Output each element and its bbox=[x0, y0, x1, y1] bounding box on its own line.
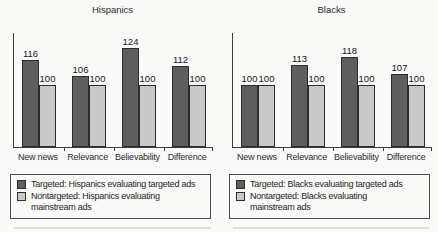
bar-nontargeted-relevance bbox=[308, 85, 325, 147]
legend-item: Nontargeted: Hispanics evaluating mainst… bbox=[17, 191, 206, 213]
bar-value-label: 124 bbox=[123, 36, 139, 47]
bar-nontargeted-relevance bbox=[89, 85, 106, 147]
bar-nontargeted-believability bbox=[139, 85, 156, 147]
axis-tick bbox=[114, 147, 115, 151]
bar-targeted-believability bbox=[122, 48, 139, 147]
bar-targeted-new-news bbox=[22, 60, 39, 147]
category-axis: New newsRelevanceBelievabilityDifference bbox=[232, 152, 431, 162]
nontargeted-swatch-icon bbox=[17, 192, 26, 201]
bar-targeted-new-news bbox=[241, 85, 258, 147]
legend-item: Targeted: Hispanics evaluating targeted … bbox=[17, 179, 206, 190]
plot-area: 116100106100124100112100 bbox=[13, 33, 213, 148]
legend: Targeted: Hispanics evaluating targeted … bbox=[10, 174, 211, 219]
bar-value-label: 100 bbox=[309, 73, 325, 84]
panel-title: Hispanics bbox=[13, 4, 212, 15]
bar-value-label: 100 bbox=[259, 73, 275, 84]
bar-value-label: 100 bbox=[140, 73, 156, 84]
bar-value-label: 100 bbox=[242, 73, 258, 84]
axis-tick bbox=[283, 147, 284, 151]
axis-tick bbox=[431, 147, 432, 151]
bar-value-label: 118 bbox=[342, 45, 357, 56]
category-label-new-news: New news bbox=[13, 152, 63, 162]
legend-label: Targeted: Blacks evaluating targeted ads bbox=[250, 179, 403, 190]
legend-item: Targeted: Blacks evaluating targeted ads bbox=[236, 179, 425, 190]
legend-label: Targeted: Hispanics evaluating targeted … bbox=[31, 179, 195, 190]
category-label-new-news: New news bbox=[232, 152, 282, 162]
axis-tick bbox=[212, 147, 213, 151]
axis-tick bbox=[333, 147, 334, 151]
bar-value-label: 106 bbox=[73, 64, 89, 75]
bar-value-label: 107 bbox=[392, 62, 408, 73]
bar-nontargeted-difference bbox=[408, 85, 425, 147]
category-axis: New newsRelevanceBelievabilityDifference bbox=[13, 152, 212, 162]
plot-area: 100100113100118100107100 bbox=[232, 33, 432, 148]
panel-title: Blacks bbox=[232, 4, 431, 15]
bar-targeted-relevance bbox=[291, 65, 308, 147]
legend-item: Nontargeted: Blacks evaluating mainstrea… bbox=[236, 191, 425, 213]
panel-hispanics: Hispanics 116100106100124100112100 New n… bbox=[0, 0, 219, 232]
category-label-relevance: Relevance bbox=[282, 152, 332, 162]
bar-value-label: 100 bbox=[359, 73, 375, 84]
bar-targeted-relevance bbox=[72, 76, 89, 147]
bar-targeted-believability bbox=[341, 57, 358, 147]
axis-tick bbox=[383, 147, 384, 151]
targeted-swatch-icon bbox=[236, 180, 245, 189]
bar-nontargeted-new-news bbox=[258, 85, 275, 147]
nontargeted-swatch-icon bbox=[236, 192, 245, 201]
category-label-believability: Believability bbox=[113, 152, 163, 162]
panel-blacks: Blacks 100100113100118100107100 New news… bbox=[219, 0, 438, 232]
axis-tick bbox=[164, 147, 165, 151]
targeted-swatch-icon bbox=[17, 180, 26, 189]
category-label-difference: Difference bbox=[162, 152, 212, 162]
bar-value-label: 112 bbox=[173, 54, 188, 65]
category-label-relevance: Relevance bbox=[63, 152, 113, 162]
category-label-difference: Difference bbox=[381, 152, 431, 162]
bar-nontargeted-new-news bbox=[39, 85, 56, 147]
bar-value-label: 100 bbox=[190, 73, 206, 84]
legend-label: Nontargeted: Blacks evaluating mainstrea… bbox=[250, 191, 402, 213]
two-panel-bar-figure: Hispanics 116100106100124100112100 New n… bbox=[0, 0, 438, 232]
legend-label: Nontargeted: Hispanics evaluating mainst… bbox=[31, 191, 183, 213]
axis-tick bbox=[64, 147, 65, 151]
bar-value-label: 116 bbox=[23, 48, 38, 59]
bar-value-label: 100 bbox=[40, 73, 56, 84]
category-label-believability: Believability bbox=[332, 152, 382, 162]
bar-value-label: 113 bbox=[292, 53, 307, 64]
bar-targeted-difference bbox=[172, 66, 189, 147]
bar-nontargeted-difference bbox=[189, 85, 206, 147]
bar-value-label: 100 bbox=[90, 73, 106, 84]
bar-targeted-difference bbox=[391, 74, 408, 147]
legend: Targeted: Blacks evaluating targeted ads… bbox=[229, 174, 430, 219]
bar-nontargeted-believability bbox=[358, 85, 375, 147]
bar-value-label: 100 bbox=[409, 73, 425, 84]
